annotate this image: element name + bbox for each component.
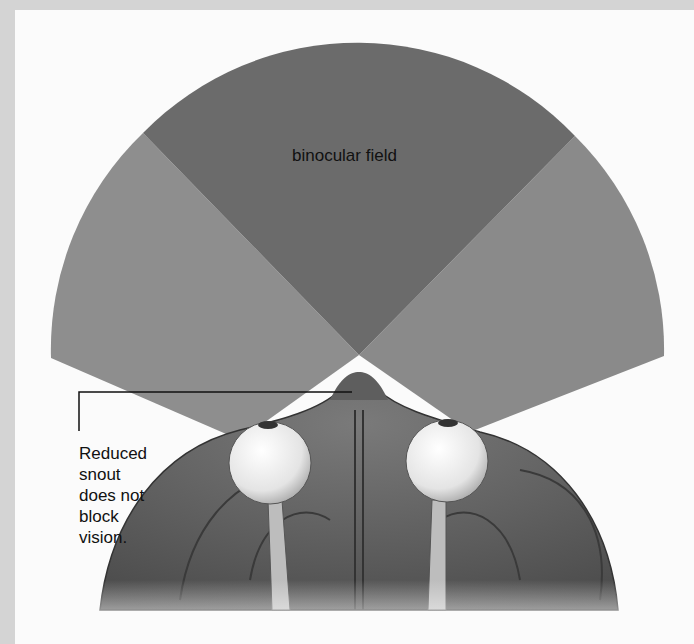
left-pupil (258, 421, 278, 429)
callout-line-2: snout (79, 464, 189, 485)
reduced-snout (330, 372, 388, 400)
callout-line-1: Reduced (79, 443, 189, 464)
callout-line-5: vision. (79, 527, 189, 548)
callout-line-4: block (79, 506, 189, 527)
right-eye-icon (406, 420, 488, 502)
right-pupil (438, 419, 458, 427)
left-eye-icon (229, 422, 311, 504)
snout-callout: Reduced snout does not block vision. (79, 443, 189, 548)
callout-line-3: does not (79, 485, 189, 506)
binocular-field-label: binocular field (292, 145, 397, 166)
bottom-fade (15, 580, 694, 644)
